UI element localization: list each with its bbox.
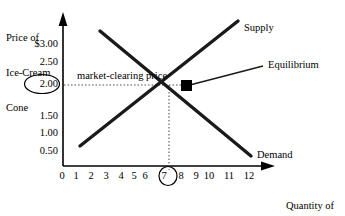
x-tick-label: 12 xyxy=(242,170,256,182)
y-tick-label: 2.50 xyxy=(0,56,58,68)
demand-curve-label: Demand xyxy=(257,149,293,161)
equilibrium-guides xyxy=(64,85,186,170)
x-tick-label: 1 xyxy=(69,170,83,182)
y-tick-label: 0.50 xyxy=(0,145,58,157)
equilibrium-point-marker xyxy=(181,80,192,91)
x-axis-title: Quantity of Ice-Cream Cones xyxy=(277,176,343,216)
y-tick-label: 1.00 xyxy=(0,127,58,139)
x-tick-label: 3 xyxy=(99,170,113,182)
x-tick-label: 6 xyxy=(138,170,152,182)
supply-demand-chart: Price of Ice-Cream Cone Quantity of Ice-… xyxy=(0,0,345,216)
x-axis-title-line1: Quantity of xyxy=(277,200,343,212)
y-axis-title-line2: Ice-Cream xyxy=(6,67,50,79)
x-tick-label: 11 xyxy=(222,170,236,182)
y-tick-label: 2.00 xyxy=(0,78,58,90)
supply-curve-label: Supply xyxy=(244,22,274,34)
x-tick-label: 9 xyxy=(189,170,203,182)
x-tick-label: 0 xyxy=(55,170,69,182)
equilibrium-label: Equilibrium xyxy=(268,59,319,71)
x-tick-label: 10 xyxy=(202,170,216,182)
market-clearing-price-label: market-clearing price xyxy=(77,70,167,82)
x-tick-label: 2 xyxy=(84,170,98,182)
y-axis xyxy=(59,12,68,166)
y-tick-label: 1.50 xyxy=(0,110,58,122)
x-tick-label: 7 xyxy=(157,170,171,182)
x-tick-label: 4 xyxy=(114,170,128,182)
x-tick-label: 8 xyxy=(174,170,188,182)
demand-curve xyxy=(100,31,251,156)
y-tick-label: $3.00 xyxy=(0,38,58,50)
equilibrium-leader-line xyxy=(186,66,263,86)
